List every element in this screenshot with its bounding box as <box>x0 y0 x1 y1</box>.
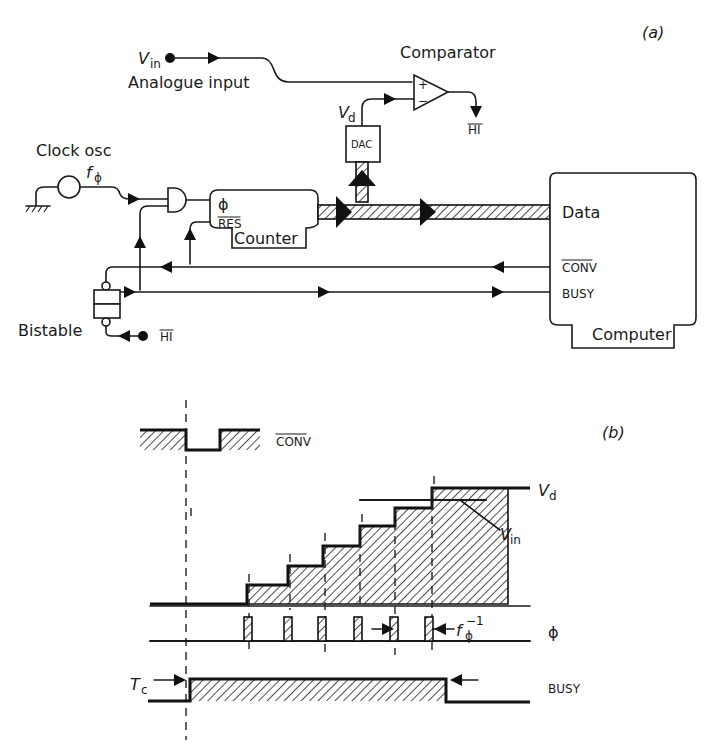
tc-subscript: c <box>141 683 148 697</box>
dac: V d DAC <box>338 93 414 202</box>
hi-terminal-icon <box>138 331 148 341</box>
computer-busy-port: BUSY <box>562 287 595 301</box>
clock-f-symbol: f <box>86 163 94 182</box>
clock-period-superscript: −1 <box>466 614 484 628</box>
computer-data-port: Data <box>562 203 600 222</box>
counter-label: Counter <box>234 229 298 248</box>
clock-f-subscript: ϕ <box>94 171 102 185</box>
counter-phi-input: ϕ <box>218 195 229 214</box>
tc-symbol: T <box>130 675 141 694</box>
computer-conv-port: CONV <box>562 261 598 275</box>
conv-signal-label: CONV <box>276 435 312 449</box>
computer-label: Computer <box>592 325 672 344</box>
bistable-hi-label: HI <box>160 330 173 344</box>
arrow-right-icon <box>318 286 330 298</box>
clock-period-subscript: ϕ <box>465 629 473 643</box>
part-a-label: (a) <box>642 23 664 42</box>
oscillator-icon <box>58 176 80 198</box>
hi-output-label: HI <box>468 123 481 137</box>
arrow-left-icon <box>160 261 172 273</box>
vd-subscript: d <box>348 111 356 125</box>
phi-signal-label: ϕ <box>548 623 559 642</box>
comparator: Comparator + − HI <box>400 43 496 137</box>
clock-oscillator: Clock osc f ϕ <box>26 141 168 212</box>
ground-icon <box>26 206 48 212</box>
input-terminal-icon <box>165 53 175 63</box>
comparator-label: Comparator <box>400 43 496 62</box>
arrow-up-icon <box>184 228 196 240</box>
arrow-left-icon <box>492 261 504 273</box>
phi-waveform: f ϕ −1 ϕ <box>150 614 559 643</box>
arrow-left-icon <box>118 330 130 342</box>
analogue-input: V in Analogue input <box>128 49 412 92</box>
analogue-input-label: Analogue input <box>128 73 250 92</box>
clock-period-symbol: f <box>456 621 464 640</box>
counter: ϕ RES Counter <box>184 190 318 264</box>
vin-subscript: in <box>150 57 161 71</box>
dac-label: DAC <box>351 139 372 150</box>
part-b-label: (b) <box>602 423 625 442</box>
and-gate-icon <box>168 188 186 212</box>
arrow-down-icon <box>470 106 482 118</box>
arrow-right-icon <box>384 93 396 105</box>
arrow-right-icon <box>128 193 140 205</box>
vd-subscript: d <box>549 489 557 503</box>
vin-symbol: V <box>138 49 150 68</box>
comparator-minus: − <box>418 94 428 108</box>
arrow-right-icon <box>208 52 220 64</box>
arrow-up-icon <box>348 170 376 186</box>
part-b-timing: (b) CONV V d V in <box>130 400 625 740</box>
part-a-circuit: (a) V in Analogue input Comparator + − H… <box>18 23 696 348</box>
arrow-right-icon <box>124 286 136 298</box>
busy-signal-label: BUSY <box>548 682 581 696</box>
busy-waveform: T c BUSY <box>130 674 581 702</box>
and-gate <box>134 188 210 290</box>
data-bus <box>318 196 550 228</box>
arrow-right-icon <box>420 198 436 226</box>
control-lines <box>106 261 550 298</box>
clock-label: Clock osc <box>36 141 111 160</box>
arrow-right-icon <box>174 674 186 686</box>
arrow-left-icon <box>434 623 446 635</box>
arrow-up-icon <box>134 236 146 248</box>
arrow-right-icon <box>492 286 504 298</box>
comparator-plus: + <box>418 78 428 92</box>
arrow-right-icon <box>336 196 352 228</box>
adc-diagram: (a) V in Analogue input Comparator + − H… <box>0 0 717 750</box>
computer: Data CONV BUSY Computer <box>550 173 696 348</box>
arrow-left-icon <box>450 674 462 686</box>
bistable-label: Bistable <box>18 321 82 340</box>
vin-subscript: in <box>510 533 521 547</box>
conv-waveform: CONV <box>140 430 312 450</box>
